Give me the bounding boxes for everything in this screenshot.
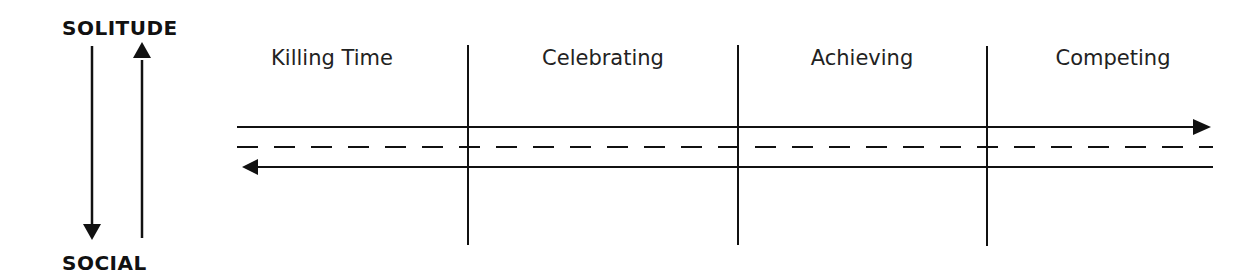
flow-diagram — [0, 0, 1259, 279]
forward-arrow-icon — [237, 119, 1211, 135]
backward-arrow-icon — [242, 159, 1213, 175]
up-arrow-icon — [133, 42, 151, 238]
down-arrow-icon — [83, 46, 101, 240]
